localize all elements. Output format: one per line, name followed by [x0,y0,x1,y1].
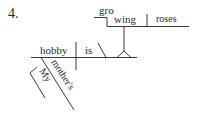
complement-slash [98,43,106,58]
gerund-text-part2: wing [114,13,137,25]
object-text: roses [156,13,177,24]
problem-number: 4. [8,6,19,21]
verb-text: is [85,44,92,56]
gerund-text-part1: gro [99,4,114,16]
modifier-text-my: My [37,66,54,84]
subject-text: hobby [40,44,68,56]
modifier-text-mothers: mother's [49,57,77,92]
sentence-diagram: 4. gro wing roses hobby is mother's My [0,0,197,116]
